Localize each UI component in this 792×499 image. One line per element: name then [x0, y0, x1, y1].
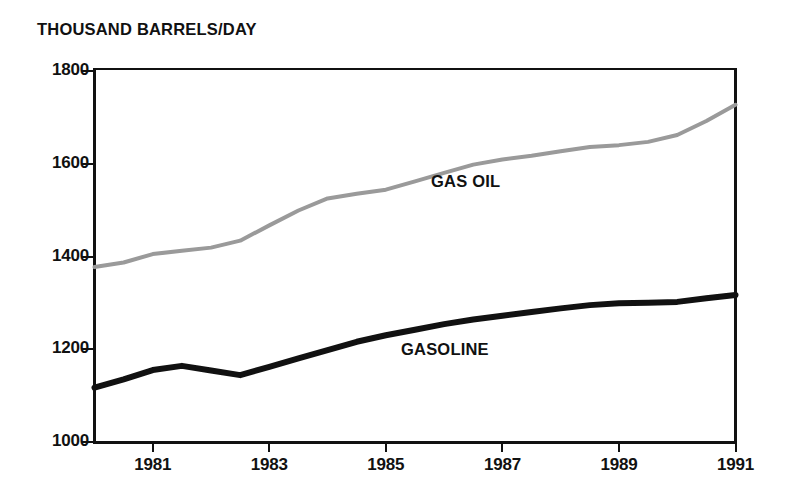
series-line-gas-oil	[95, 105, 736, 267]
x-tick-label: 1991	[717, 455, 754, 475]
plot-area: 18001600140012001000 1981198319851987198…	[93, 68, 737, 443]
y-tick-label: 1200	[52, 338, 89, 358]
x-tick-label: 1983	[251, 455, 288, 475]
y-tick-label: 1000	[52, 431, 89, 451]
series-label-gas-oil: GAS OIL	[431, 172, 500, 191]
x-tick-label: 1981	[134, 455, 171, 475]
y-tick-label: 1800	[52, 60, 89, 80]
series-plot	[93, 68, 737, 444]
y-tick-label: 1400	[52, 246, 89, 266]
y-axis-title: THOUSAND BARRELS/DAY	[37, 20, 257, 39]
x-tick-label: 1987	[484, 455, 521, 475]
y-tick-label: 1600	[52, 153, 89, 173]
x-tick-label: 1989	[600, 455, 637, 475]
chart-figure: THOUSAND BARRELS/DAY 1800160014001200100…	[0, 0, 792, 499]
x-tick-label: 1985	[367, 455, 404, 475]
series-label-gasoline: GASOLINE	[401, 340, 489, 359]
